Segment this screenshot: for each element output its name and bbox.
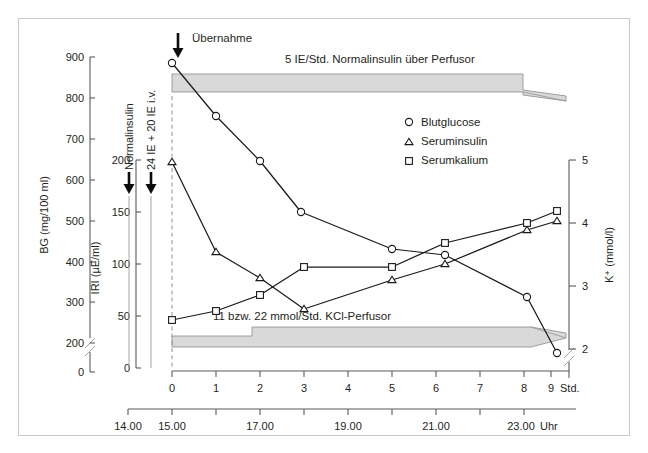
square-marker (524, 220, 531, 227)
circle-marker (441, 251, 448, 258)
k-tick-3: 3 (582, 280, 588, 292)
bg-tick-900: 900 (66, 51, 84, 63)
dose-label-normalinsulin: Normalinsulin (123, 103, 135, 170)
series-serumkalium (169, 208, 561, 324)
square-marker (554, 208, 561, 215)
iri-axis-title: IRI (µE/ml) (89, 242, 101, 295)
bg-tick-300: 300 (66, 296, 84, 308)
circle-marker (553, 349, 560, 356)
kcl-perfusor-band (172, 327, 566, 347)
square-marker (257, 292, 264, 299)
circle-marker (168, 59, 175, 66)
square-marker (213, 308, 220, 315)
circle-marker (523, 293, 530, 300)
bg-tick-400: 400 (66, 256, 84, 268)
bg-axis-title: BG (mg/100 ml) (38, 176, 50, 254)
circle-marker (297, 208, 304, 215)
hour-tick-5: 5 (389, 382, 395, 394)
clock-axis: 14.00 15.00 17.00 19.00 21.00 23.00 Uhr (114, 409, 576, 432)
legend-triangle-marker (405, 138, 413, 144)
insulin-band-label: 5 IE/Std. Normalinsulin über Perfusor (285, 53, 475, 65)
hours-axis: 0 1 2 3 4 5 6 7 8 9 Std. (169, 371, 580, 394)
circle-marker (388, 245, 395, 252)
hour-tick-8: 8 (521, 382, 527, 394)
triangle-marker (168, 158, 176, 164)
circle-marker (256, 157, 263, 164)
legend-label-blutglucose: Blutglucose (421, 116, 480, 128)
triangle-marker (256, 274, 264, 280)
hour-tick-4: 4 (345, 382, 351, 394)
hour-tick-3: 3 (301, 382, 307, 394)
square-marker (442, 240, 449, 247)
dose-marker-normalinsulin: Normalinsulin (123, 103, 135, 368)
figure-root: 900 800 700 600 500 400 300 200 0 BG (mg… (0, 0, 648, 453)
bg-tick-800: 800 (66, 92, 84, 104)
chart-canvas: 900 800 700 600 500 400 300 200 0 BG (mg… (0, 0, 648, 453)
legend-square-marker (406, 158, 413, 165)
clock-tick-2100: 21.00 (422, 420, 450, 432)
hour-tick-9: 9 (548, 382, 554, 394)
bg-tick-700: 700 (66, 133, 84, 145)
clock-tick-1400: 14.00 (114, 420, 142, 432)
takeover-marker: Übernahme (173, 32, 253, 58)
legend-label-seruminsulin: Seruminsulin (421, 135, 487, 147)
bg-tick-200: 200 (66, 337, 84, 349)
dose-label-iv-bolus: 24 IE + 20 IE i.v. (145, 90, 157, 170)
clock-unit-label: Uhr (540, 420, 558, 432)
bg-tick-0: 0 (78, 366, 84, 378)
k-axis: 5 4 3 2 K⁺ (mmol/l) (564, 154, 615, 378)
clock-tick-1500: 15.00 (158, 420, 186, 432)
insulin-perfusor-band (172, 74, 566, 101)
iri-tick-50: 50 (118, 310, 130, 322)
triangle-marker (553, 217, 561, 223)
dose-marker-iv-bolus: 24 IE + 20 IE i.v. (145, 90, 157, 368)
k-tick-5: 5 (582, 154, 588, 166)
bg-tick-500: 500 (66, 215, 84, 227)
iri-axis: 200 150 100 50 0 IRI (µE/ml) (89, 154, 141, 374)
iri-tick-100: 100 (112, 258, 130, 270)
hour-tick-6: 6 (433, 382, 439, 394)
clock-tick-1900: 19.00 (334, 420, 362, 432)
iri-tick-150: 150 (112, 206, 130, 218)
triangle-marker (212, 248, 220, 254)
k-axis-title: K⁺ (mmol/l) (603, 227, 615, 283)
square-marker (301, 264, 308, 271)
clock-tick-2300: 23.00 (507, 420, 535, 432)
bg-tick-600: 600 (66, 174, 84, 186)
series-seruminsulin (168, 158, 561, 311)
hour-tick-2: 2 (257, 382, 263, 394)
k-tick-4: 4 (582, 217, 588, 229)
hour-tick-7: 7 (477, 382, 483, 394)
square-marker (389, 264, 396, 271)
clock-tick-1700: 17.00 (246, 420, 274, 432)
hour-tick-0: 0 (169, 382, 175, 394)
square-marker (169, 317, 176, 324)
chart-legend: Blutglucose Seruminsulin Serumkalium (405, 116, 488, 166)
takeover-label: Übernahme (192, 32, 252, 44)
hour-tick-1: 1 (213, 382, 219, 394)
legend-label-serumkalium: Serumkalium (421, 154, 488, 166)
circle-marker (212, 112, 219, 119)
legend-circle-marker (405, 118, 412, 125)
k-tick-2: 2 (582, 343, 588, 355)
hours-unit-label: Std. (560, 382, 580, 394)
bg-axis: 900 800 700 600 500 400 300 200 0 BG (mg… (38, 51, 95, 378)
